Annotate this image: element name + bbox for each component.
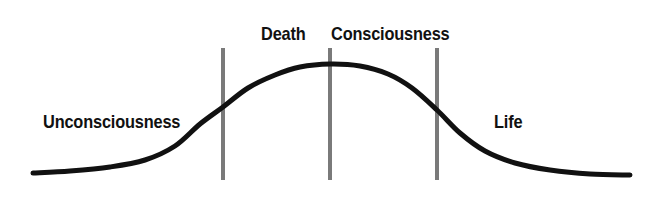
region-label-consciousness: Consciousness <box>331 24 450 43</box>
region-label-death: Death <box>261 24 306 43</box>
region-label-life: Life <box>494 112 522 131</box>
region-label-unconsciousness: Unconsciousness <box>43 112 180 131</box>
bell-curve-figure <box>0 0 657 197</box>
diagram-canvas: Unconsciousness Death Consciousness Life <box>0 0 657 197</box>
